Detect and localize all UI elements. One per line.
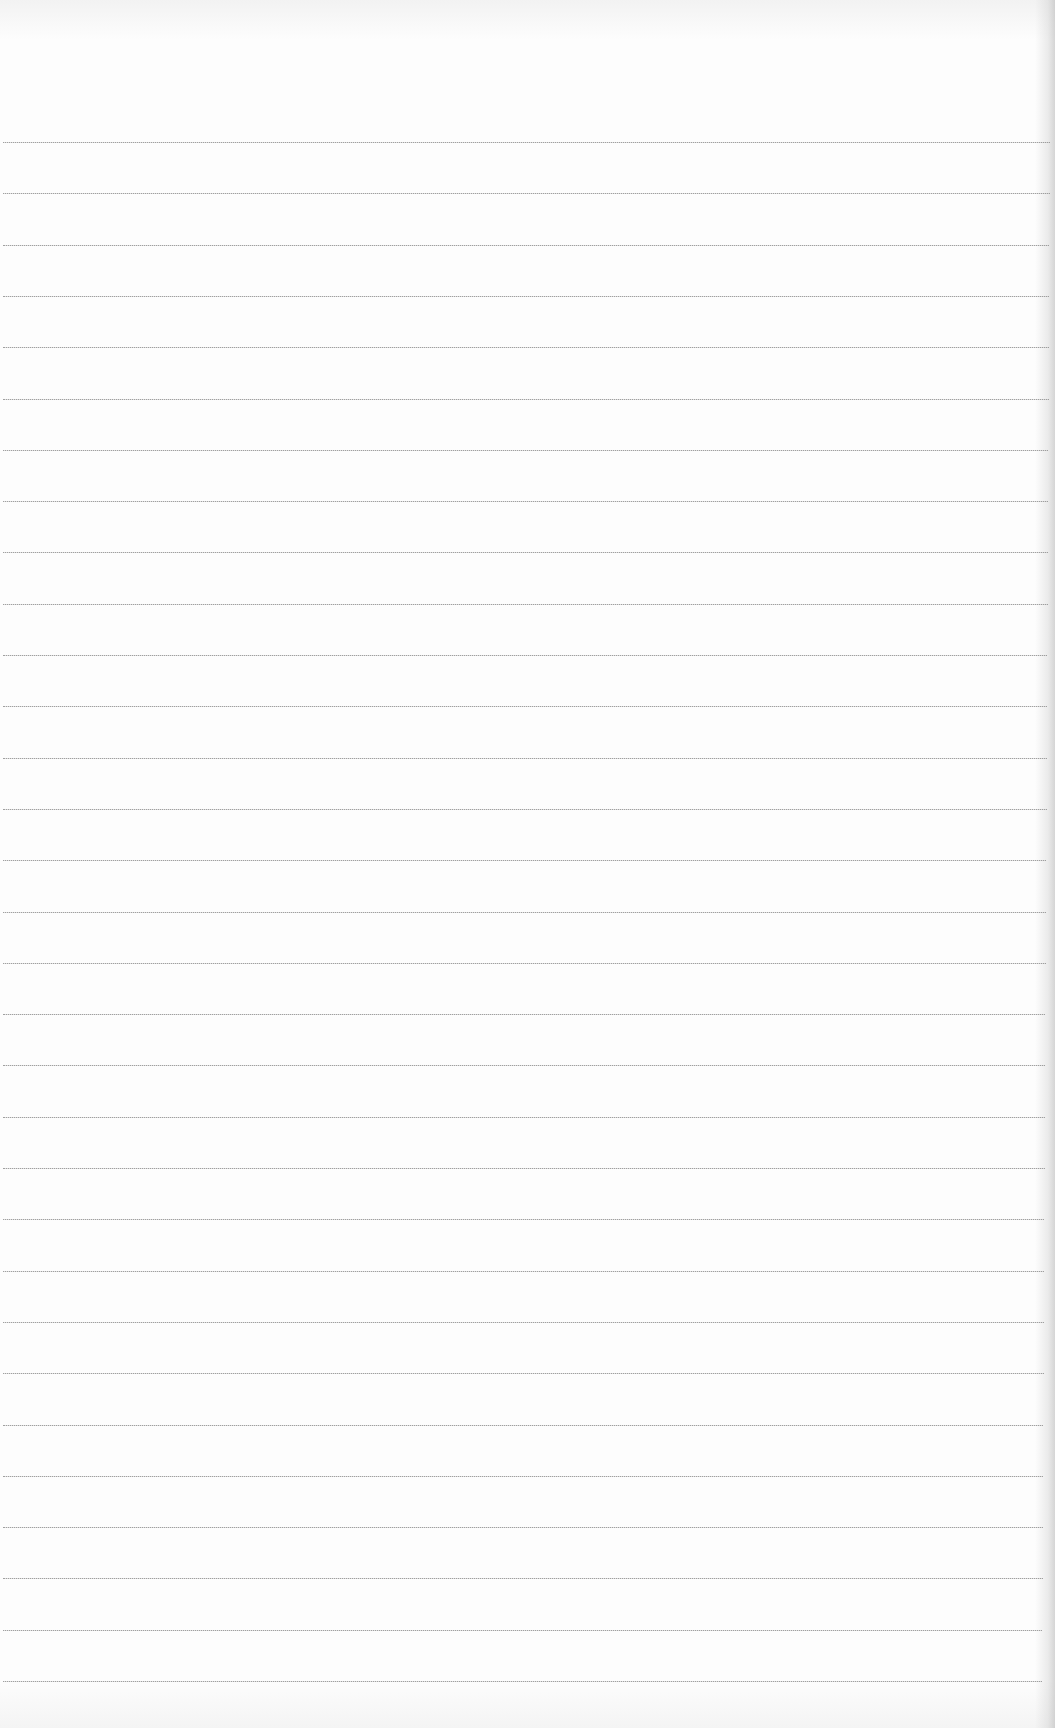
ruled-line [3, 1630, 1042, 1632]
ruled-line [3, 1322, 1044, 1324]
ruled-line [3, 1373, 1044, 1375]
ruled-line [3, 245, 1049, 247]
ruled-line [3, 1117, 1045, 1119]
ruled-line [3, 1014, 1045, 1016]
ruled-line [3, 1219, 1044, 1221]
ruled-line [3, 604, 1048, 606]
ruled-line [3, 347, 1049, 349]
ruled-line [3, 655, 1047, 657]
ruled-line [3, 963, 1046, 965]
ruled-line [3, 1168, 1045, 1170]
ruled-line [3, 399, 1049, 401]
ruled-line [3, 296, 1049, 298]
ruled-line [3, 501, 1048, 503]
ruled-line [3, 860, 1046, 862]
ruled-line [3, 912, 1046, 914]
ruled-line [3, 552, 1048, 554]
ruled-line [3, 1578, 1043, 1580]
ruled-line [3, 1271, 1044, 1273]
ruled-line [3, 809, 1047, 811]
ruled-line [3, 1527, 1043, 1529]
ruled-line [3, 450, 1048, 452]
ruled-line [3, 193, 1050, 195]
ruled-line [3, 1065, 1045, 1067]
ruled-line [3, 1425, 1043, 1427]
ruled-line [3, 706, 1047, 708]
ruled-line [3, 1681, 1042, 1683]
ruled-line [3, 142, 1050, 144]
ruled-line [3, 1476, 1043, 1478]
ruled-line [3, 758, 1047, 760]
lined-paper-sheet [0, 0, 1055, 1728]
